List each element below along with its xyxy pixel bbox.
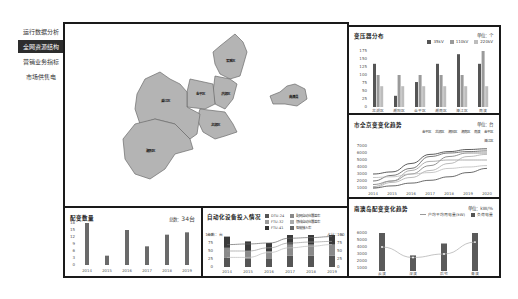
svg-text:2019: 2019 (327, 269, 337, 274)
svg-text:深澳: 深澳 (409, 271, 417, 276)
svg-text:18: 18 (70, 220, 76, 225)
automation-panel: 自动化设备投入情况 DTU-24 配网自动化覆盖率 FTU-32 馈线自动化覆盖… (201, 206, 349, 278)
svg-text:2015: 2015 (102, 268, 112, 273)
svg-text:2015: 2015 (243, 269, 253, 274)
svg-text:1000: 1000 (357, 185, 368, 190)
svg-text:50: 50 (337, 248, 343, 253)
district-label: 龙湖区 (210, 122, 221, 127)
svg-text:50: 50 (362, 88, 368, 93)
nav-item-operation-analysis[interactable]: 运行数据分析 (18, 25, 64, 38)
svg-text:2000: 2000 (357, 258, 368, 263)
svg-text:0: 0 (72, 262, 75, 267)
district-label: 南澳县 (289, 94, 299, 99)
svg-text:1000: 1000 (357, 265, 368, 270)
svg-text:100: 100 (337, 232, 345, 237)
svg-text:4000: 4000 (357, 164, 368, 169)
electricity-trend-panel: 市全京变变化趋势 单位：台 金平区龙湖区潮阳区潮南区 南澳金平区濠江区 1000… (347, 113, 501, 199)
electricity-line-chart: 1000200030004000 500060007000 2014201520… (349, 115, 499, 197)
svg-text:2019: 2019 (182, 268, 192, 273)
svg-text:2016: 2016 (406, 191, 416, 196)
svg-text:12: 12 (70, 234, 76, 239)
svg-text:2017: 2017 (425, 191, 435, 196)
nanao-combo-chart: 100020003000 400050006000 云澳深澳后宅青澳 (349, 199, 499, 276)
svg-text:后宅: 后宅 (440, 271, 448, 276)
nanao-panel: 南澳岛配变变化趋势 单位：kW/% 户均平均用电量(kW) 负荷电量 10002… (347, 197, 501, 278)
svg-text:25: 25 (337, 256, 343, 261)
svg-text:2018: 2018 (306, 269, 316, 274)
svg-text:15: 15 (70, 227, 76, 232)
svg-text:2018: 2018 (444, 191, 454, 196)
svg-text:7000: 7000 (357, 143, 368, 148)
svg-text:3000: 3000 (357, 171, 368, 176)
svg-text:100: 100 (359, 72, 367, 77)
svg-text:2019: 2019 (463, 191, 473, 196)
svg-text:9: 9 (72, 241, 75, 246)
transformer-bar-chart: 0255075 100125150175 龙湖区潮阳区金平区潮南区濠江区南澳 (349, 27, 499, 113)
svg-text:2017: 2017 (285, 269, 295, 274)
nav-item-marketing-metrics[interactable]: 营销业务指标 (18, 55, 64, 68)
svg-text:0: 0 (364, 104, 367, 109)
map-panel: 梁溪区 洪湖区 金平区 龙湖区 濠江区 潮阳区 南澳县 (63, 22, 349, 208)
svg-text:6000: 6000 (357, 150, 368, 155)
svg-text:2014: 2014 (82, 268, 92, 273)
svg-text:4000: 4000 (357, 244, 368, 249)
svg-text:150: 150 (359, 56, 367, 61)
sidebar-nav: 运行数据分析 全网资源结构 营销业务指标 市场供售电 (18, 25, 64, 85)
svg-text:100: 100 (205, 232, 213, 237)
district-label: 洪湖区 (221, 91, 231, 96)
district-label: 金平区 (195, 91, 206, 96)
svg-text:6000: 6000 (357, 230, 368, 235)
district-map: 梁溪区 洪湖区 金平区 龙湖区 濠江区 潮阳区 南澳县 (65, 24, 347, 206)
svg-text:2015: 2015 (387, 191, 397, 196)
svg-text:6: 6 (72, 248, 75, 253)
svg-text:2016: 2016 (264, 269, 274, 274)
distribution-count-panel: 配变数量 总数：34台 0369 121518 2014201520162017… (63, 206, 203, 278)
svg-text:175: 175 (359, 48, 367, 53)
svg-text:5000: 5000 (357, 157, 368, 162)
svg-text:75: 75 (337, 240, 343, 245)
svg-text:75: 75 (208, 240, 214, 245)
svg-text:50: 50 (208, 248, 214, 253)
district-region-lianghu (213, 34, 247, 79)
svg-text:25: 25 (208, 256, 214, 261)
automation-combo-chart: 0255075100 0255075100 201420152016201720… (203, 208, 347, 276)
distribution-bar-chart: 0369 121518 201420152016201720182019 (65, 208, 201, 276)
svg-text:3000: 3000 (357, 251, 368, 256)
district-label: 梁溪区 (225, 58, 236, 63)
svg-text:2016: 2016 (122, 268, 132, 273)
district-label: 濠江区 (161, 98, 171, 103)
svg-text:2014: 2014 (222, 269, 232, 274)
svg-text:青澳: 青澳 (471, 271, 479, 276)
svg-text:125: 125 (359, 64, 367, 69)
svg-text:0: 0 (337, 264, 340, 269)
transformer-panel: 变压器分布 单位：个 35kV 110kV 220kV 0255075 1001… (347, 25, 501, 115)
svg-text:0: 0 (210, 264, 213, 269)
nav-item-network-structure[interactable]: 全网资源结构 (18, 40, 64, 53)
district-label: 潮阳区 (146, 148, 156, 153)
svg-text:2018: 2018 (162, 268, 172, 273)
svg-text:2000: 2000 (357, 178, 368, 183)
nav-item-market-supply[interactable]: 市场供售电 (18, 70, 64, 83)
svg-text:3: 3 (72, 255, 75, 260)
svg-text:75: 75 (362, 80, 368, 85)
svg-text:2014: 2014 (368, 191, 378, 196)
svg-text:25: 25 (362, 96, 368, 101)
svg-text:云澳: 云澳 (378, 271, 386, 276)
svg-text:5000: 5000 (357, 237, 368, 242)
svg-text:2017: 2017 (142, 268, 152, 273)
svg-text:2020: 2020 (482, 191, 492, 196)
